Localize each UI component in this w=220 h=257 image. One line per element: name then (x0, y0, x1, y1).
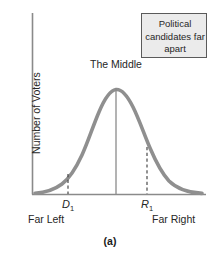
r1-label-base: R (141, 198, 149, 210)
r1-label-subscript: 1 (149, 204, 153, 213)
d1-label-base: D (62, 198, 70, 210)
d1-annotation-label: D1 (55, 198, 81, 214)
figure-panel-a: Number of Voters The Middle D1 R1 Far Le… (0, 0, 220, 257)
x-axis-tick-label-far-right: Far Right (152, 213, 195, 225)
x-axis-tick-label-far-left: Far Left (28, 213, 64, 225)
y-axis-label: Number of Voters (30, 53, 42, 173)
middle-annotation-label: The Middle (88, 58, 144, 71)
r1-annotation-label: R1 (134, 198, 160, 214)
callout-box: Political candidates far apart (141, 13, 207, 58)
panel-caption: (a) (0, 235, 220, 247)
voter-distribution-curve (35, 89, 202, 193)
callout-text: Political candidates far apart (142, 18, 208, 56)
d1-label-subscript: 1 (70, 204, 74, 213)
